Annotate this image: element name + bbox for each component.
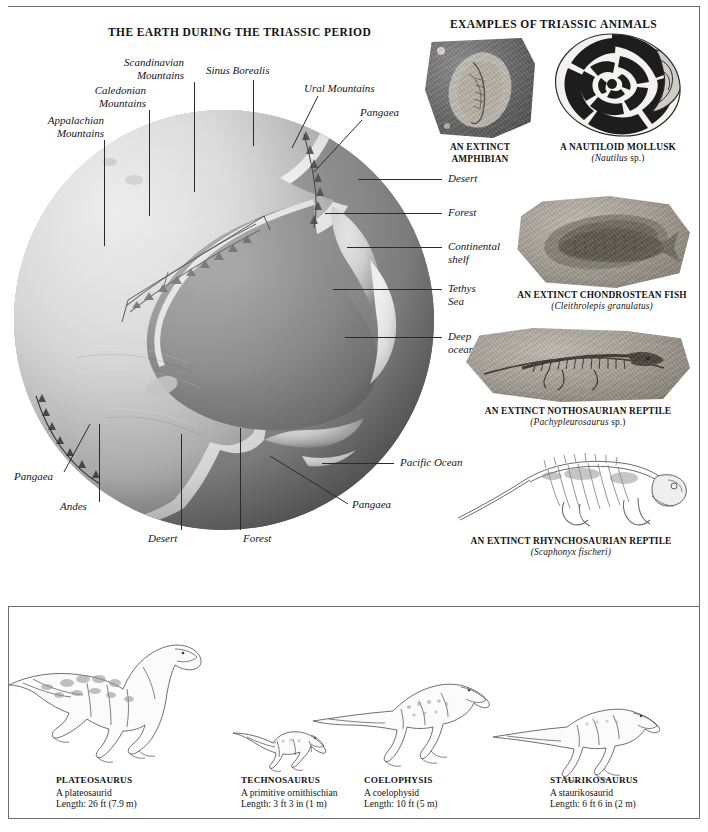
plateosaurus-group: A plateosaurid xyxy=(56,787,137,799)
animals-panel-title: EXAMPLES OF TRIASSIC ANIMALS xyxy=(450,18,657,30)
fish-caption: AN EXTINCT CHONDROSTEAN FISH xyxy=(514,290,690,302)
globe-label-appalachian-mountains: AppalachianMountains xyxy=(8,114,104,139)
globe-label-tethys-sea: TethysSea xyxy=(448,282,508,307)
leader-caledonian xyxy=(149,110,150,216)
globe-label-desert-right: Desert xyxy=(448,172,477,185)
globe-label-scandinavian-mountains: ScandinavianMountains xyxy=(88,56,184,81)
plateosaurus-length: Length: 26 ft (7.9 m) xyxy=(56,798,137,810)
leader-tethys-sea xyxy=(333,289,442,290)
nothosaur-species-suffix: sp.) xyxy=(609,417,626,427)
globe-label-forest-bottom: Forest xyxy=(243,532,271,545)
rhynchosaur-species: (Scaphonyx fischeri) xyxy=(452,547,690,559)
globe-label-andes: Andes xyxy=(60,500,87,513)
amphibian-fossil-image xyxy=(425,38,535,138)
dinosaur-technosaurus-caption: TECHNOSAURUS A primitive ornithischian L… xyxy=(241,775,337,810)
page-rule-top xyxy=(8,6,700,7)
plateosaurus-name: PLATEOSAURUS xyxy=(56,775,137,787)
page-rule-right xyxy=(699,6,700,606)
triassic-dinosaur-panel: PLATEOSAURUS A plateosaurid Length: 26 f… xyxy=(9,607,699,817)
encyclopedia-page: THE EARTH DURING THE TRIASSIC PERIOD EXA… xyxy=(0,0,708,832)
nautiloid-genus: (Nautilus xyxy=(591,153,627,163)
panel-rule-right xyxy=(699,606,700,818)
rhynchosaur-skeleton-image xyxy=(452,440,690,532)
leader-forest-bottom xyxy=(240,428,241,530)
fossil-nothosaurian-reptile: AN EXTINCT NOTHOSAURIAN REPTILE (Pachypl… xyxy=(466,328,690,430)
dinosaur-plateosaurus-figure xyxy=(3,627,243,777)
staurikosaurus-name: STAURIKOSAURUS xyxy=(550,775,638,787)
nautiloid-caption: A NAUTILOID MOLLUSK xyxy=(552,142,684,154)
nautiloid-species: (Nautilus sp.) xyxy=(552,153,684,165)
coelophysis-group: A coelophysid xyxy=(364,787,438,799)
fish-fossil-image xyxy=(514,196,690,288)
globe-label-pangaea-left: Pangaea xyxy=(14,470,53,483)
amphibian-caption: AN EXTINCT AMPHIBIAN xyxy=(425,142,535,165)
leader-andes xyxy=(99,424,100,502)
technosaurus-length: Length: 3 ft 3 in (1 m) xyxy=(241,798,337,810)
page-title: THE EARTH DURING THE TRIASSIC PERIOD xyxy=(108,26,371,38)
staurikosaurus-length: Length: 6 ft 6 in (2 m) xyxy=(550,798,638,810)
leader-pangaea-top xyxy=(308,116,366,176)
nautiloid-species-suffix: sp.) xyxy=(628,153,645,163)
globe-label-continental-shelf: Continentalshelf xyxy=(448,240,520,265)
fossil-nautiloid-mollusk: A NAUTILOID MOLLUSK (Nautilus sp.) xyxy=(552,32,684,144)
leader-pangaea-right xyxy=(266,452,354,508)
leader-deep-ocean xyxy=(345,337,442,338)
globe-label-forest-right: Forest xyxy=(448,206,476,219)
dinosaur-staurikosaurus-caption: STAURIKOSAURUS A staurikosaurid Length: … xyxy=(550,775,638,810)
leader-desert-right xyxy=(358,179,442,180)
coelophysis-length: Length: 10 ft (5 m) xyxy=(364,798,438,810)
rhynchosaur-caption: AN EXTINCT RHYNCHOSAURIAN REPTILE xyxy=(452,536,690,548)
fossil-chondrostean-fish: AN EXTINCT CHONDROSTEAN FISH (Cleithrole… xyxy=(514,196,690,308)
leader-sinus-borealis xyxy=(253,80,254,146)
globe-label-pangaea-right: Pangaea xyxy=(352,498,391,511)
fossil-extinct-amphibian: AN EXTINCT AMPHIBIAN xyxy=(425,38,535,143)
staurikosaurus-group: A staurikosaurid xyxy=(550,787,638,799)
nothosaur-species: (Pachypleurosaurus sp.) xyxy=(466,417,690,429)
leader-appalachian xyxy=(104,140,105,246)
dinosaur-coelophysis-caption: COELOPHYSIS A coelophysid Length: 10 ft … xyxy=(364,775,438,810)
leader-pangaea-left xyxy=(60,420,94,476)
leader-desert-bottom xyxy=(181,434,182,530)
nothosaur-fossil-image xyxy=(466,328,690,402)
page-rule-bottom xyxy=(8,818,700,819)
globe-label-desert-bottom: Desert xyxy=(148,532,177,545)
globe-label-sinus-borealis: Sinus Borealis xyxy=(206,64,269,77)
nothosaur-caption: AN EXTINCT NOTHOSAURIAN REPTILE xyxy=(466,406,690,418)
globe-label-caledonian-mountains: CaledonianMountains xyxy=(50,84,146,109)
nautiloid-shell-image xyxy=(552,32,684,138)
coelophysis-name: COELOPHYSIS xyxy=(364,775,438,787)
fish-species: (Cleithrolepis granulatus) xyxy=(514,301,690,313)
nothosaur-genus: (Pachypleurosaurus xyxy=(530,417,608,427)
dinosaur-plateosaurus-caption: PLATEOSAURUS A plateosaurid Length: 26 f… xyxy=(56,775,137,810)
leader-scandinavian xyxy=(194,82,195,192)
technosaurus-group: A primitive ornithischian xyxy=(241,787,337,799)
leader-continental-shelf xyxy=(347,247,442,248)
leader-forest-right xyxy=(325,213,442,214)
fossil-rhynchosaurian-reptile: AN EXTINCT RHYNCHOSAURIAN REPTILE (Scaph… xyxy=(452,440,690,560)
